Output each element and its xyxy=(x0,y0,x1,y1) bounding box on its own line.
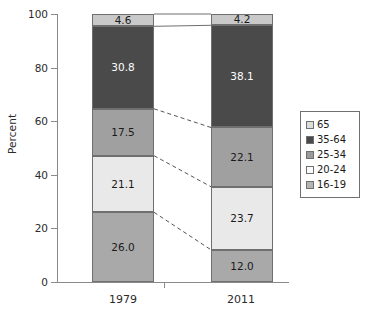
legend-label: 16-19 xyxy=(317,180,346,190)
segment-2011-65[interactable]: 4.2 xyxy=(211,14,273,25)
bar-2011[interactable]: 4.2 38.1 22.1 23.7 12.0 xyxy=(211,14,273,282)
legend-label: 65 xyxy=(317,120,330,130)
y-tick-20 xyxy=(51,228,57,229)
legend-item-25-34[interactable]: 25-34 xyxy=(306,147,355,162)
y-tick-label-60: 60 xyxy=(8,116,48,127)
legend-swatch-icon xyxy=(306,181,314,189)
legend-swatch-icon xyxy=(306,121,314,129)
legend-item-16-19[interactable]: 16-19 xyxy=(306,177,355,192)
x-tick-label-1979: 1979 xyxy=(88,293,158,306)
connector-3564-2534 xyxy=(154,109,211,128)
y-axis-line xyxy=(57,14,58,282)
legend-label: 20-24 xyxy=(317,165,346,175)
x-axis-line xyxy=(57,282,289,283)
legend-swatch-icon xyxy=(306,136,314,144)
y-tick-label-80: 80 xyxy=(8,63,48,74)
y-tick-60 xyxy=(51,121,57,122)
y-axis-title: Percent xyxy=(6,94,18,174)
x-tick-center xyxy=(164,282,165,288)
legend-label: 25-34 xyxy=(317,150,346,160)
segment-value-label: 22.1 xyxy=(230,152,253,163)
segment-value-label: 30.8 xyxy=(111,62,134,73)
segment-value-label: 38.1 xyxy=(230,71,253,82)
legend-item-65[interactable]: 65 xyxy=(306,117,355,132)
chart-legend: 65 35-64 25-34 20-24 16-19 xyxy=(300,111,360,198)
x-tick-label-2011: 2011 xyxy=(206,293,276,306)
segment-2011-20-24[interactable]: 23.7 xyxy=(211,187,273,251)
segment-value-label: 17.5 xyxy=(111,127,134,138)
y-tick-80 xyxy=(51,68,57,69)
segment-value-label: 12.0 xyxy=(230,261,253,272)
segment-2011-25-34[interactable]: 22.1 xyxy=(211,127,273,186)
connector-65-3564 xyxy=(154,25,211,26)
y-tick-label-40: 40 xyxy=(8,170,48,181)
segment-1979-16-19[interactable]: 26.0 xyxy=(92,212,154,282)
stacked-bar-chart: Percent 100 80 60 40 20 0 1979 2011 4.6 … xyxy=(0,0,366,326)
segment-value-label: 23.7 xyxy=(230,213,253,224)
connector-2534-2024 xyxy=(154,156,211,187)
segment-value-label: 26.0 xyxy=(111,242,134,253)
legend-item-35-64[interactable]: 35-64 xyxy=(306,132,355,147)
segment-1979-65[interactable]: 4.6 xyxy=(92,14,154,26)
legend-swatch-icon xyxy=(306,166,314,174)
connector-2024-1619 xyxy=(154,212,211,250)
bar-1979[interactable]: 4.6 30.8 17.5 21.1 26.0 xyxy=(92,14,154,282)
y-tick-label-0: 0 xyxy=(8,277,48,288)
legend-swatch-icon xyxy=(306,151,314,159)
segment-value-label: 4.2 xyxy=(234,14,251,25)
y-tick-label-20: 20 xyxy=(8,223,48,234)
segment-1979-25-34[interactable]: 17.5 xyxy=(92,109,154,156)
y-tick-40 xyxy=(51,175,57,176)
y-tick-label-100: 100 xyxy=(8,9,48,20)
legend-item-20-24[interactable]: 20-24 xyxy=(306,162,355,177)
segment-1979-20-24[interactable]: 21.1 xyxy=(92,156,154,213)
segment-2011-35-64[interactable]: 38.1 xyxy=(211,25,273,127)
y-tick-100 xyxy=(51,14,57,15)
segment-1979-35-64[interactable]: 30.8 xyxy=(92,26,154,109)
legend-label: 35-64 xyxy=(317,135,346,145)
segment-value-label: 21.1 xyxy=(111,179,134,190)
segment-value-label: 4.6 xyxy=(115,15,132,26)
segment-2011-16-19[interactable]: 12.0 xyxy=(211,250,273,282)
